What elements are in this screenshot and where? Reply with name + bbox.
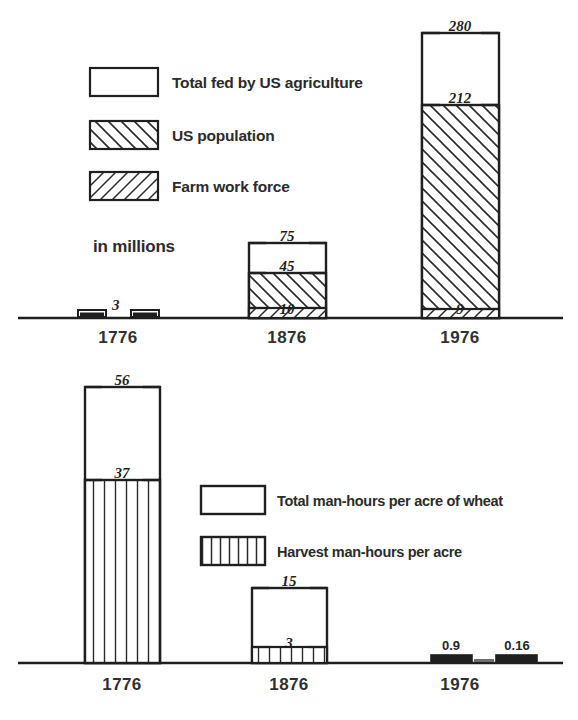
legend-label-total-fed: Total fed by US agriculture [172,74,363,91]
top-chart-legend: Total fed by US agriculture US populatio… [90,68,363,200]
legend-label-farm-work-force: Farm work force [172,178,290,195]
legend-item-us-population: US population [90,121,274,149]
value-label-1776-total-fed: 3 [111,297,120,313]
legend-item-harvest-man-hours: Harvest man-hours per acre [201,537,462,565]
legend-item-total-man-hours: Total man-hours per acre of wheat [201,486,503,514]
value-label-1876-harvest-man-hours: 3 [284,635,293,651]
bar-1976-harvest-man-hours [474,659,494,662]
value-label-1876-total-fed: 75 [280,228,296,244]
legend-item-total-fed: Total fed by US agriculture [90,68,363,96]
x-label-1876: 1876 [269,675,308,694]
value-label-1976-farm-work-force: 9 [456,301,464,317]
bar-group-1976: 0.9 0.16 [431,638,537,662]
x-label-1776: 1776 [98,328,137,347]
bar-group-1876: 15 3 [252,573,327,663]
dense-hatch-box-swatch [90,121,158,149]
bottom-chart-legend: Total man-hours per acre of wheat Harves… [201,486,503,565]
value-label-1976-us-population: 212 [448,90,472,106]
bar-group-1876: 75 45 10 [249,228,326,318]
bar-1976-total-man-hours-left [431,655,472,662]
bar-1776-population-left [80,313,104,317]
bar-1976-total-man-hours-right [496,655,537,662]
units-note: in millions [93,237,175,256]
value-label-1776-total-man-hours: 56 [115,372,131,388]
top-bar-chart: Total fed by US agriculture US populatio… [0,0,578,360]
x-label-1776: 1776 [102,675,141,694]
legend-item-farm-work-force: Farm work force [90,172,290,200]
x-label-1876: 1876 [267,328,306,347]
empty-box-swatch [90,68,158,96]
sparse-hatch-box-swatch [90,172,158,200]
bar-1776-population-right [133,313,157,317]
legend-label-us-population: US population [172,127,274,144]
bar-group-1776: 56 37 [85,372,160,663]
value-label-1976-total-fed: 280 [448,18,472,34]
bar-1776-harvest-man-hours [85,480,160,663]
bottom-chart-canvas: Total man-hours per acre of wheat Harves… [0,360,578,720]
bar-group-1976: 280 212 9 [422,18,499,318]
empty-box-swatch [201,486,265,514]
value-label-1876-us-population: 45 [279,258,296,274]
legend-label-harvest-man-hours: Harvest man-hours per acre [277,544,462,560]
value-label-1776-harvest-man-hours: 37 [114,465,131,481]
x-label-1976: 1976 [440,675,479,694]
x-label-1976: 1976 [440,328,479,347]
bar-group-1776: 3 [78,297,159,317]
value-label-1876-total-man-hours: 15 [282,573,298,589]
value-label-1976-harvest-man-hours: 0.16 [504,638,529,653]
vertical-hatch-box-swatch [201,537,265,565]
bottom-bar-chart: Total man-hours per acre of wheat Harves… [0,360,578,720]
bar-1976-us-population [422,105,499,318]
legend-label-total-man-hours: Total man-hours per acre of wheat [277,493,503,509]
top-chart-canvas: Total fed by US agriculture US populatio… [0,0,578,360]
value-label-1976-total-man-hours: 0.9 [442,638,460,653]
value-label-1876-farm-work-force: 10 [280,301,296,317]
